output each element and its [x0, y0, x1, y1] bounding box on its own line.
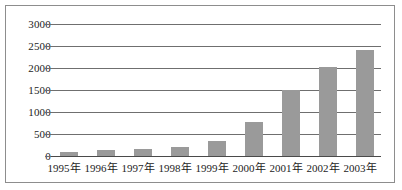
x-tick-label-1995: 1995年 — [47, 162, 81, 174]
x-tick-label-1999: 1999年 — [195, 162, 229, 174]
bar-2003 — [356, 50, 374, 156]
bar-2001 — [282, 90, 300, 156]
bar-1998 — [171, 147, 189, 156]
bar-2000 — [245, 122, 263, 156]
plot-area — [51, 24, 381, 156]
bar-2002 — [319, 67, 337, 156]
gridline-2500 — [51, 46, 381, 47]
x-tick-label-2002: 2002年 — [306, 162, 340, 174]
x-tick-label-2003: 2003年 — [343, 162, 377, 174]
bar-1999 — [208, 141, 226, 156]
y-axis: 3000 2500 2000 1500 1000 500 0 — [6, 6, 51, 184]
x-tick-label-1997: 1997年 — [121, 162, 155, 174]
x-axis-baseline — [51, 156, 381, 157]
chart-figure-frame: 3000 2500 2000 1500 1000 500 0 — [5, 5, 395, 183]
x-tick-label-1998: 1998年 — [158, 162, 192, 174]
gridline-3000 — [51, 24, 381, 25]
bar-1997 — [134, 149, 152, 156]
x-tick-label-1996: 1996年 — [84, 162, 118, 174]
x-tick-label-2000: 2000年 — [232, 162, 266, 174]
bar-chart: 3000 2500 2000 1500 1000 500 0 — [6, 6, 396, 184]
x-tick-label-2001: 2001年 — [269, 162, 303, 174]
